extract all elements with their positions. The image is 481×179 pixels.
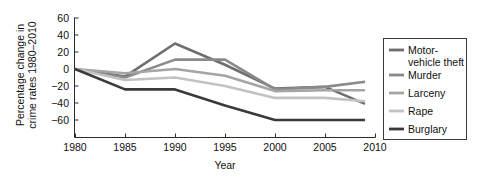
x-tick-label: 1985: [113, 141, 137, 153]
y-tick-labels: 60 40 20 0 −20 −40 −60: [51, 12, 69, 126]
y-tick-label: 40: [57, 29, 69, 41]
y-axis-label-line1: Percentage change in: [14, 24, 26, 126]
x-tick-label: 2010: [363, 141, 387, 153]
y-tick-label: 20: [57, 46, 69, 58]
legend-label-burglary: Burglary: [408, 123, 448, 135]
legend-label-motor-vehicle-theft-line2: vehicle theft: [408, 56, 464, 68]
x-tick-label: 2000: [263, 141, 287, 153]
legend-label-motor-vehicle-theft-line1: Motor-: [408, 44, 439, 56]
y-tick-label: −20: [51, 80, 69, 92]
crime-rate-line-chart: Percentage change in crime rates 1980–20…: [0, 0, 481, 179]
legend-label-rape: Rape: [408, 105, 433, 117]
y-tick-label: −60: [51, 114, 69, 126]
legend: Motor- vehicle theft Murder Larceny Rape…: [384, 39, 467, 140]
y-tick-label: −40: [51, 97, 69, 109]
legend-label-murder: Murder: [408, 69, 442, 81]
y-tick-label: 60: [57, 12, 69, 24]
y-axis-label-line2: crime rates 1980–2010: [26, 21, 38, 129]
x-tick-label: 1990: [163, 141, 187, 153]
x-tick-label: 1995: [213, 141, 237, 153]
chart-canvas: Percentage change in crime rates 1980–20…: [0, 0, 481, 179]
x-tick-label: 1980: [63, 141, 87, 153]
y-tick-label: 0: [63, 63, 69, 75]
y-axis-label: Percentage change in crime rates 1980–20…: [14, 21, 38, 129]
legend-label-larceny: Larceny: [408, 87, 446, 99]
x-tick-labels: 1980 1985 1990 1995 2000 2005 2010: [63, 141, 387, 153]
x-axis-label: Year: [214, 159, 236, 171]
series-lines: [75, 44, 365, 121]
x-tick-label: 2005: [313, 141, 337, 153]
x-tick-marks: [76, 134, 376, 138]
